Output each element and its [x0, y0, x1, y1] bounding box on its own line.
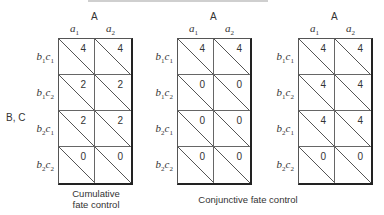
diagonal-line-icon — [214, 147, 250, 183]
column-level-a1: a1 — [70, 22, 79, 37]
column-level-subscript: 2 — [231, 29, 235, 37]
diagonal-line-icon — [178, 75, 214, 111]
payoff-value: 4 — [117, 43, 123, 54]
payoff-grid: 44222200 — [58, 38, 133, 185]
row-level-part: 2 — [170, 93, 174, 101]
row-level-part: 1 — [170, 129, 174, 137]
column-level-subscript: 1 — [76, 29, 80, 37]
row-level-label: b1c2 — [139, 86, 173, 101]
diagonal-line-icon — [299, 111, 335, 147]
payoff-value: 4 — [357, 43, 363, 54]
payoff-cell: 0 — [178, 75, 214, 111]
payoff-cell: 4 — [335, 75, 371, 111]
payoff-cell: 2 — [59, 111, 95, 147]
diagonal-line-icon — [214, 39, 250, 75]
row-level-label: b2c2 — [20, 158, 54, 173]
payoff-value: 0 — [236, 79, 242, 90]
payoff-cell: 0 — [95, 147, 131, 183]
row-level-label: b1c2 — [260, 86, 294, 101]
row-level-label: b1c2 — [20, 86, 54, 101]
diagonal-line-icon — [178, 111, 214, 147]
payoff-grid: 44444400 — [298, 38, 373, 185]
payoff-cell: 0 — [214, 111, 250, 147]
diagonal-line-icon — [299, 39, 335, 75]
diagonal-line-icon — [59, 39, 95, 75]
caption-line-2: fate control — [60, 199, 132, 210]
payoff-value: 0 — [236, 151, 242, 162]
diagonal-line-icon — [59, 111, 95, 147]
payoff-cell: 4 — [299, 39, 335, 75]
diagonal-line-icon — [214, 75, 250, 111]
payoff-value: 4 — [320, 43, 326, 54]
payoff-cell: 0 — [214, 75, 250, 111]
row-level-part: 2 — [51, 93, 55, 101]
caption-cumulative: Cumulative fate control — [60, 188, 132, 210]
column-level-subscript: 1 — [195, 29, 199, 37]
row-level-label: b2c1 — [20, 122, 54, 137]
payoff-value: 2 — [80, 79, 86, 90]
diagonal-line-icon — [95, 111, 131, 147]
row-level-part: 1 — [291, 129, 295, 137]
caption-line-1: Cumulative — [60, 188, 132, 199]
column-factor-label: A — [210, 11, 217, 22]
payoff-cell: 0 — [335, 147, 371, 183]
row-level-label: b2c2 — [260, 158, 294, 173]
payoff-cell: 2 — [95, 111, 131, 147]
payoff-value: 4 — [320, 79, 326, 90]
column-factor-label: A — [331, 11, 338, 22]
diagonal-line-icon — [335, 111, 371, 147]
diagonal-line-icon — [59, 75, 95, 111]
payoff-value: 0 — [357, 151, 363, 162]
payoff-value: 4 — [236, 43, 242, 54]
payoff-value: 0 — [236, 115, 242, 126]
payoff-cell: 4 — [214, 39, 250, 75]
row-level-label: b2c1 — [139, 122, 173, 137]
column-level-subscript: 1 — [316, 29, 320, 37]
cropped-header-text — [88, 0, 268, 2]
payoff-cell: 0 — [178, 111, 214, 147]
column-level-a2: a2 — [106, 22, 115, 37]
payoff-value: 0 — [199, 151, 205, 162]
payoff-value: 0 — [117, 151, 123, 162]
payoff-cell: 2 — [95, 75, 131, 111]
payoff-value: 2 — [80, 115, 86, 126]
payoff-cell: 4 — [335, 39, 371, 75]
payoff-cell: 4 — [95, 39, 131, 75]
row-level-label: b2c2 — [139, 158, 173, 173]
payoff-value: 4 — [80, 43, 86, 54]
payoff-value: 4 — [320, 115, 326, 126]
row-level-part: 1 — [291, 57, 295, 65]
row-level-label: b1c1 — [139, 50, 173, 65]
payoff-cell: 4 — [299, 111, 335, 147]
column-level-subscript: 2 — [352, 29, 356, 37]
row-level-label: b2c1 — [260, 122, 294, 137]
payoff-cell: 0 — [214, 147, 250, 183]
payoff-value: 0 — [320, 151, 326, 162]
payoff-cell: 4 — [299, 75, 335, 111]
column-level-a1: a1 — [189, 22, 198, 37]
payoff-cell: 4 — [178, 39, 214, 75]
payoff-grid: 44000000 — [177, 38, 252, 185]
row-level-part: 2 — [170, 165, 174, 173]
diagonal-line-icon — [335, 147, 371, 183]
payoff-value: 0 — [199, 79, 205, 90]
row-level-label: b1c1 — [20, 50, 54, 65]
payoff-cell: 4 — [335, 111, 371, 147]
diagonal-line-icon — [335, 75, 371, 111]
diagonal-line-icon — [59, 147, 95, 183]
payoff-value: 0 — [199, 115, 205, 126]
payoff-cell: 2 — [59, 75, 95, 111]
payoff-value: 2 — [117, 79, 123, 90]
payoff-value: 4 — [357, 79, 363, 90]
diagonal-line-icon — [299, 147, 335, 183]
payoff-cell: 0 — [178, 147, 214, 183]
diagonal-line-icon — [178, 39, 214, 75]
row-level-part: 1 — [51, 129, 55, 137]
row-level-part: 2 — [291, 93, 295, 101]
diagonal-line-icon — [95, 147, 131, 183]
payoff-cell: 0 — [59, 147, 95, 183]
column-level-a2: a2 — [225, 22, 234, 37]
payoff-value: 4 — [357, 115, 363, 126]
column-factor-label: A — [91, 11, 98, 22]
payoff-cell: 0 — [299, 147, 335, 183]
